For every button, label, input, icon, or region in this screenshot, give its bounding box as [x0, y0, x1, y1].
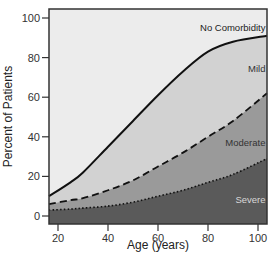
x-tick-label: 20: [52, 232, 64, 244]
region-label-mild: Mild: [248, 63, 265, 74]
y-tick-label: 20: [28, 170, 40, 182]
y-tick-label: 80: [28, 52, 40, 64]
region-label-severe: Severe: [235, 194, 265, 205]
y-tick-label: 60: [28, 91, 40, 103]
region-label-no-comorbidity: No Comorbidity: [200, 22, 266, 33]
x-tick-label: 40: [102, 232, 114, 244]
region-label-moderate: Moderate: [225, 137, 265, 148]
y-axis: 020406080100: [22, 12, 49, 222]
x-axis-title: Age (years): [127, 238, 189, 252]
y-axis-title: Percent of Patients: [1, 66, 15, 167]
stacked-area-chart: 20406080100 020406080100 No ComorbidityM…: [0, 0, 276, 258]
x-tick-label: 100: [249, 232, 267, 244]
x-tick-label: 80: [202, 232, 214, 244]
y-tick-label: 40: [28, 131, 40, 143]
y-tick-label: 100: [22, 12, 40, 24]
y-tick-label: 0: [34, 210, 40, 222]
